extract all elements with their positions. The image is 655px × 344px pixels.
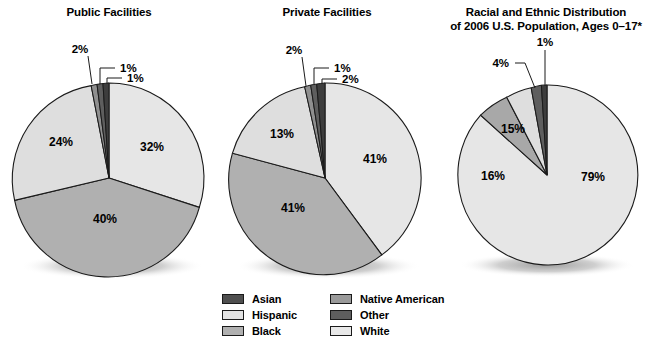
legend-item-black[interactable]: Black xyxy=(222,323,297,339)
pie-value-label-white: 79% xyxy=(581,170,605,184)
chart-panel-private-facilities: Private Facilities xyxy=(218,0,436,290)
chart-legend: Asian Hispanic Black Native American Oth… xyxy=(222,291,437,341)
pie-leader-label-asian: 2% xyxy=(286,44,303,56)
legend-label-native-american: Native American xyxy=(360,293,444,305)
legend-column-right: Native American Other White xyxy=(330,291,444,339)
pie-value-label-black: 41% xyxy=(281,201,305,215)
legend-item-native-american[interactable]: Native American xyxy=(330,291,444,307)
leader-line-asian xyxy=(302,57,306,86)
legend-label-black: Black xyxy=(252,325,281,337)
legend-item-hispanic[interactable]: Hispanic xyxy=(222,307,297,323)
leader-line-other xyxy=(515,63,535,88)
legend-label-white: White xyxy=(360,325,389,337)
pie-value-label-white: 32% xyxy=(140,140,164,154)
legend-swatch-white xyxy=(330,326,352,336)
pie-leader-label-other: 2% xyxy=(342,73,359,85)
pie-chart-figure: Public Facilities xyxy=(0,0,655,344)
pie-leader-label-other: 1% xyxy=(127,72,144,84)
pie-value-label-hispanic: 24% xyxy=(49,135,73,149)
legend-label-asian: Asian xyxy=(252,293,281,305)
legend-label-hispanic: Hispanic xyxy=(252,309,297,321)
pie-value-label-hispanic: 13% xyxy=(270,127,294,141)
pie-leader-label-other: 4% xyxy=(492,57,509,69)
legend-item-asian[interactable]: Asian xyxy=(222,291,297,307)
pie-value-label-hispanic: 15% xyxy=(501,122,525,136)
legend-item-white[interactable]: White xyxy=(330,323,444,339)
pie-chart-public-facilities: 2% 1% 1% 32% 40% 24% xyxy=(0,0,218,290)
pie-value-label-black: 40% xyxy=(93,212,117,226)
pie-leader-label-asian: 1% xyxy=(537,36,554,48)
legend-swatch-black xyxy=(222,326,244,336)
pie-leader-label-asian: 2% xyxy=(72,43,89,55)
legend-swatch-hispanic xyxy=(222,310,244,320)
legend-swatch-other xyxy=(330,310,352,320)
pie-chart-us-population: 4% 1% 79% 16% 15% xyxy=(437,0,655,290)
legend-swatch-native-american xyxy=(330,294,352,304)
chart-panel-public-facilities: Public Facilities xyxy=(0,0,218,290)
leader-line-asian xyxy=(88,56,92,84)
legend-label-other: Other xyxy=(360,309,389,321)
pie-chart-private-facilities: 2% 1% 2% 41% 41% 13% xyxy=(218,0,436,290)
pie-value-label-black: 16% xyxy=(481,169,505,183)
pie-value-label-white: 41% xyxy=(363,152,387,166)
legend-column-left: Asian Hispanic Black xyxy=(222,291,297,339)
legend-swatch-asian xyxy=(222,294,244,304)
chart-panel-us-population: Racial and Ethnic Distribution of 2006 U… xyxy=(437,0,655,290)
legend-item-other[interactable]: Other xyxy=(330,307,444,323)
